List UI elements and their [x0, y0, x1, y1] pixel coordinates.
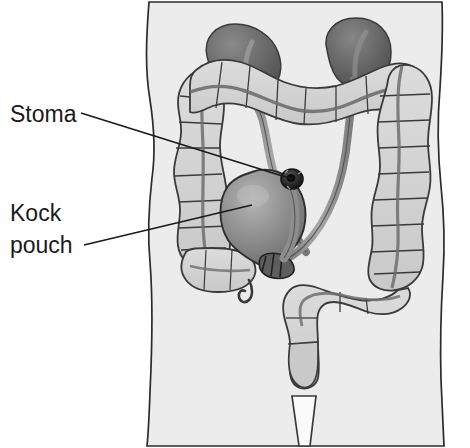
label-kock-pouch-line1: Kock [10, 200, 62, 226]
illustration-canvas: Stoma Kock pouch [0, 0, 470, 448]
rectum [289, 342, 318, 388]
label-kock-pouch-line2: pouch [10, 232, 73, 258]
anatomy-illustration: Stoma Kock pouch [0, 0, 470, 448]
label-stoma-text: Stoma [10, 101, 77, 127]
label-stoma: Stoma [10, 101, 77, 127]
label-kock-pouch: Kock pouch [10, 200, 73, 258]
